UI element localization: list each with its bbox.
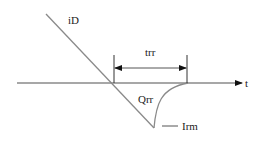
qrr-label: Qrr: [138, 93, 154, 105]
trr-label: trr: [145, 46, 156, 58]
time-axis-label: t: [245, 77, 248, 89]
current-falling-line: [46, 14, 154, 128]
current-label: iD: [68, 14, 79, 26]
irm-label: Irm: [182, 120, 198, 132]
reverse-recovery-diagram: iD t trr Qrr Irm: [0, 0, 264, 141]
diagram-canvas: iD t trr Qrr Irm: [0, 0, 264, 141]
